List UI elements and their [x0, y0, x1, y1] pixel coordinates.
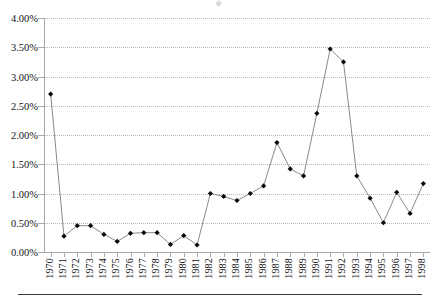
x-axis-tick-label: 1994: [364, 258, 374, 279]
data-point-marker: [274, 140, 279, 145]
x-axis-tick-label: 1979: [164, 258, 174, 279]
data-point-marker: [261, 183, 266, 188]
legend-marker-icon: [216, 0, 222, 7]
x-axis-tick-label: 1983: [218, 258, 228, 279]
x-axis-tick: [423, 252, 424, 257]
x-axis-tick: [290, 252, 291, 257]
x-axis-tick: [410, 252, 411, 257]
x-axis-tick: [304, 252, 305, 257]
x-axis-tick-label: 1980: [178, 258, 188, 279]
x-axis-tick: [277, 252, 278, 257]
data-point-marker: [234, 198, 239, 203]
x-axis-tick: [51, 252, 52, 257]
y-axis-tick-label: 1.00%: [0, 188, 38, 199]
x-axis-tick-label: 1985: [244, 258, 254, 279]
x-axis-tick-label: 1984: [231, 258, 241, 279]
data-point-marker: [141, 230, 146, 235]
x-axis-tick: [250, 252, 251, 257]
data-point-marker: [128, 231, 133, 236]
x-axis-tick-label: 1978: [151, 258, 161, 279]
data-point-marker: [314, 111, 319, 116]
x-axis-tick-label: 1982: [204, 258, 214, 279]
x-axis-tick: [330, 252, 331, 257]
x-axis-tick-label: 1987: [271, 258, 281, 279]
x-axis-tick: [184, 252, 185, 257]
y-axis-tick-label: 3.00%: [0, 71, 38, 82]
y-axis-tick-label: 3.50%: [0, 42, 38, 53]
bottom-rule: [18, 294, 422, 295]
data-point-marker: [301, 173, 306, 178]
x-axis-tick-label: 1996: [391, 258, 401, 279]
x-axis-tick-label: 1988: [284, 258, 294, 279]
data-series: [44, 18, 430, 252]
data-point-marker: [368, 196, 373, 201]
x-axis-tick-label: 1998: [417, 258, 427, 279]
line-chart: 0.00%0.50%1.00%1.50%2.00%2.50%3.00%3.50%…: [0, 0, 440, 302]
x-axis-tick: [77, 252, 78, 257]
x-axis-tick: [264, 252, 265, 257]
x-axis-tick-label: 1972: [71, 258, 81, 279]
x-axis-tick-label: 1970: [45, 258, 55, 279]
x-axis-tick-label: 1976: [125, 258, 135, 279]
y-axis-tick: [38, 252, 44, 253]
x-axis-tick: [170, 252, 171, 257]
data-point-marker: [381, 220, 386, 225]
data-point-marker: [48, 91, 53, 96]
x-axis-tick-label: 1974: [98, 258, 108, 279]
x-axis-tick: [157, 252, 158, 257]
x-axis-tick: [104, 252, 105, 257]
data-point-marker: [248, 191, 253, 196]
x-axis-tick: [357, 252, 358, 257]
x-axis-tick-label: 1971: [58, 258, 68, 279]
x-axis-tick: [144, 252, 145, 257]
x-axis-tick-label: 1995: [377, 258, 387, 279]
x-axis-tick-label: 1973: [85, 258, 95, 279]
x-axis-tick: [370, 252, 371, 257]
x-axis-tick: [117, 252, 118, 257]
x-axis-tick-label: 1977: [138, 258, 148, 279]
data-point-marker: [221, 194, 226, 199]
x-axis-tick: [383, 252, 384, 257]
x-axis-tick-label: 1992: [337, 258, 347, 279]
x-axis-tick: [343, 252, 344, 257]
data-point-marker: [88, 223, 93, 228]
x-axis-tick: [197, 252, 198, 257]
y-axis-tick-label: 4.00%: [0, 13, 38, 24]
x-axis-tick: [317, 252, 318, 257]
data-point-marker: [354, 173, 359, 178]
series-line: [51, 49, 424, 245]
data-point-marker: [115, 239, 120, 244]
x-axis-tick-label: 1989: [298, 258, 308, 279]
x-axis-tick-label: 1990: [311, 258, 321, 279]
data-point-marker: [208, 191, 213, 196]
x-axis-tick-label: 1986: [258, 258, 268, 279]
x-axis-tick-label: 1981: [191, 258, 201, 279]
y-axis-tick-label: 0.00%: [0, 247, 38, 258]
data-point-marker: [101, 232, 106, 237]
x-axis-tick: [237, 252, 238, 257]
y-axis-tick-label: 0.50%: [0, 217, 38, 228]
x-axis-tick-label: 1975: [111, 258, 121, 279]
x-axis-tick-label: 1993: [351, 258, 361, 279]
y-axis-tick-label: 2.50%: [0, 100, 38, 111]
x-axis-tick: [224, 252, 225, 257]
x-axis-tick-label: 1997: [404, 258, 414, 279]
data-point-marker: [288, 166, 293, 171]
y-axis-tick-label: 1.50%: [0, 159, 38, 170]
x-axis-tick: [91, 252, 92, 257]
x-axis-tick: [397, 252, 398, 257]
x-axis-tick: [64, 252, 65, 257]
data-point-marker: [421, 181, 426, 186]
data-point-marker: [407, 211, 412, 216]
x-axis-tick: [131, 252, 132, 257]
legend-ghost: [216, 0, 286, 7]
y-axis-tick-label: 2.00%: [0, 130, 38, 141]
x-axis-tick: [210, 252, 211, 257]
data-point-marker: [394, 190, 399, 195]
x-axis-tick-label: 1991: [324, 258, 334, 279]
